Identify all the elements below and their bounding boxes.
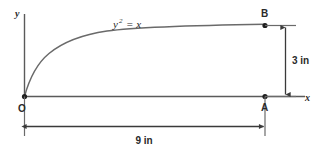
curve-equation-rest: = x (126, 18, 141, 30)
point-b-label: B (261, 8, 268, 19)
point-labels-group: O A B (18, 8, 268, 114)
x-axis-label: x (304, 92, 310, 103)
parabola-region-diagram: 3 in 9 in y x O A B y 2 = x (0, 0, 324, 152)
figure-container: 3 in 9 in y x O A B y 2 = x (0, 0, 324, 152)
horizontal-dimension-group: 9 in (26, 127, 264, 147)
curve-equation-exponent: 2 (119, 17, 123, 25)
horizontal-dimension-label: 9 in (135, 135, 152, 146)
axis-labels-group: y x (14, 8, 310, 103)
curve-group (25, 24, 266, 96)
point-a-label: A (261, 102, 268, 113)
vertical-dimension-group: 3 in (286, 28, 310, 95)
curve-equation-group: y 2 = x (112, 17, 141, 30)
vertical-dimension-label: 3 in (292, 55, 309, 66)
point-o-label: O (18, 103, 26, 114)
parabola-curve (25, 24, 266, 96)
extension-lines-group (25, 26, 297, 137)
y-axis-label: y (14, 8, 20, 19)
curve-equation-base: y (112, 18, 118, 30)
points-group (22, 23, 268, 99)
